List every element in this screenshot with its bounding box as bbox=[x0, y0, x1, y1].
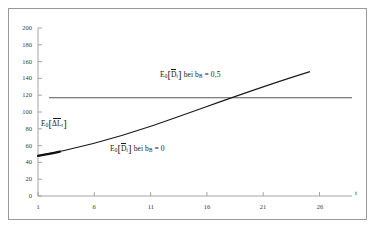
annotation-inner-overline: D bbox=[121, 144, 127, 153]
series-curve-head bbox=[38, 152, 60, 156]
annotation-suffix: = 0,5 bbox=[205, 70, 221, 79]
y-tick-label: 20 bbox=[10, 175, 32, 182]
y-tick-label: 200 bbox=[10, 24, 32, 31]
annotation-curve-label: E0[Dt] bei bB = 0 bbox=[110, 143, 165, 154]
annotation-inner: D bbox=[171, 70, 177, 79]
x-axis-label: t bbox=[355, 189, 357, 197]
y-tick-label: 40 bbox=[10, 158, 32, 165]
x-tick-label: 11 bbox=[140, 203, 162, 210]
y-tick-label: 60 bbox=[10, 142, 32, 149]
y-tick-label: 180 bbox=[10, 41, 32, 48]
chart-plot-area bbox=[0, 0, 377, 231]
bracket-close-icon: ] bbox=[128, 143, 132, 154]
y-tick-label: 140 bbox=[10, 74, 32, 81]
y-tick-label: 0 bbox=[10, 192, 32, 199]
y-tick-label: 160 bbox=[10, 58, 32, 65]
series-curve-line bbox=[38, 72, 310, 156]
y-tick-label: 100 bbox=[10, 108, 32, 115]
x-tick-label: 26 bbox=[309, 203, 331, 210]
annotation-middle: bei b bbox=[184, 70, 199, 79]
bracket-close-icon: ] bbox=[63, 118, 67, 129]
annotation-inner: ΔL bbox=[52, 119, 62, 128]
annotation-inner-overline: D bbox=[171, 70, 177, 79]
annotation-middle-sub: B bbox=[199, 73, 203, 79]
y-tick-label: 120 bbox=[10, 91, 32, 98]
annotation-middle-sub: B bbox=[149, 147, 153, 153]
x-tick-label: 1 bbox=[27, 203, 49, 210]
x-tick-label: 6 bbox=[83, 203, 105, 210]
annotation-delta-label: E0[ΔLt] bbox=[41, 118, 67, 129]
x-tick-label: 21 bbox=[252, 203, 274, 210]
annotation-flat-line-label: E0[Dt] bei bB = 0,5 bbox=[160, 69, 221, 80]
x-tick-label: 16 bbox=[196, 203, 218, 210]
annotation-inner-overline: ΔL bbox=[52, 119, 62, 128]
annotation-inner: D bbox=[121, 144, 127, 153]
y-tick-label: 80 bbox=[10, 125, 32, 132]
annotation-middle: bei b bbox=[134, 144, 149, 153]
x-axis-ticks bbox=[38, 192, 320, 196]
bracket-close-icon: ] bbox=[178, 69, 182, 80]
annotation-suffix: = 0 bbox=[155, 144, 165, 153]
y-axis-ticks bbox=[38, 28, 42, 196]
